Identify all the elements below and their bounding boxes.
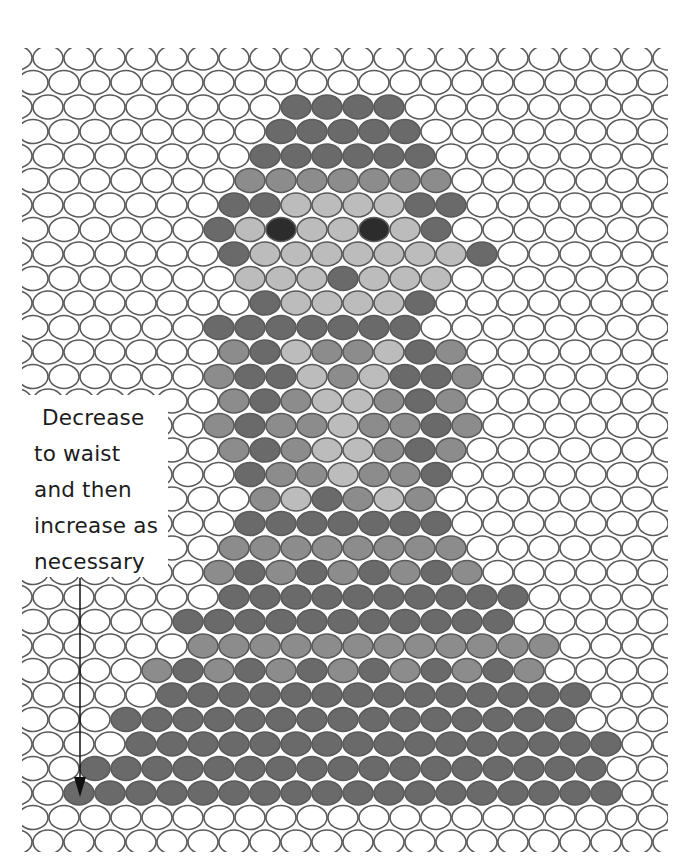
stitch-cell-empty	[483, 512, 513, 536]
stitch-cell-empty	[204, 169, 234, 193]
stitch-cell-empty	[514, 120, 544, 144]
stitch-cell-empty	[173, 463, 203, 487]
stitch-cell-filled	[250, 438, 280, 462]
stitch-cell-empty	[111, 365, 141, 389]
stitch-cell-filled	[452, 610, 482, 634]
stitch-cell-empty	[498, 340, 528, 364]
stitch-cell-filled	[204, 414, 234, 438]
stitch-cell-empty	[188, 95, 218, 119]
stitch-cell-empty	[343, 48, 373, 70]
stitch-cell-filled	[374, 683, 404, 707]
stitch-cell-empty	[173, 71, 203, 95]
stitch-cell-filled	[281, 389, 311, 413]
stitch-cell-empty	[514, 414, 544, 438]
stitch-cell-empty	[22, 169, 48, 193]
stitch-cell-filled	[374, 585, 404, 609]
stitch-cell-filled	[467, 781, 497, 805]
stitch-cell-filled	[374, 536, 404, 560]
stitch-cell-filled	[436, 683, 466, 707]
stitch-cell-empty	[529, 242, 559, 266]
stitch-cell-filled	[374, 389, 404, 413]
stitch-cell-empty	[638, 561, 668, 585]
stitch-cell-filled	[235, 561, 265, 585]
stitch-cell-empty	[576, 610, 606, 634]
stitch-cell-empty	[622, 634, 652, 658]
stitch-cell-empty	[622, 438, 652, 462]
stitch-cell-filled	[390, 316, 420, 340]
stitch-cell-filled	[235, 610, 265, 634]
stitch-cell-filled	[343, 193, 373, 217]
stitch-cell-empty	[126, 340, 156, 364]
stitch-cell-empty	[22, 659, 48, 683]
stitch-cell-empty	[514, 218, 544, 242]
stitch-cell-filled	[514, 708, 544, 732]
stitch-cell-filled	[297, 708, 327, 732]
annotation-line: increase as	[34, 508, 174, 544]
stitch-cell-filled	[545, 708, 575, 732]
stitch-cell-empty	[80, 316, 110, 340]
stitch-cell-filled	[452, 365, 482, 389]
stitch-cell-filled	[421, 365, 451, 389]
stitch-cell-empty	[22, 48, 32, 70]
stitch-cell-empty	[576, 169, 606, 193]
stitch-cell-empty	[390, 71, 420, 95]
stitch-cell-filled	[405, 683, 435, 707]
stitch-cell-filled	[390, 365, 420, 389]
stitch-cell-empty	[111, 267, 141, 291]
stitch-cell-empty	[576, 708, 606, 732]
stitch-cell-empty	[126, 291, 156, 315]
stitch-cell-empty	[622, 144, 652, 168]
stitch-cell-empty	[22, 291, 32, 315]
stitch-cell-empty	[545, 512, 575, 536]
stitch-cell-empty	[467, 193, 497, 217]
stitch-cell-filled	[436, 438, 466, 462]
stitch-cell-empty	[219, 144, 249, 168]
stitch-cell-filled	[219, 732, 249, 756]
stitch-cell-empty	[95, 193, 125, 217]
stitch-cell-empty	[498, 830, 528, 852]
stitch-cell-filled	[328, 463, 358, 487]
stitch-cell-empty	[638, 708, 668, 732]
stitch-cell-filled	[250, 536, 280, 560]
stitch-cell-empty	[653, 487, 668, 511]
stitch-cell-filled	[219, 683, 249, 707]
stitch-cell-filled	[266, 316, 296, 340]
stitch-cell-empty	[142, 169, 172, 193]
stitch-cell-empty	[359, 71, 389, 95]
stitch-cell-filled	[297, 218, 327, 242]
stitch-cell-filled	[421, 659, 451, 683]
stitch-cell-empty	[560, 389, 590, 413]
stitch-cell-empty	[591, 193, 621, 217]
stitch-cell-empty	[64, 732, 94, 756]
stitch-cell-empty	[33, 291, 63, 315]
stitch-cell-empty	[576, 414, 606, 438]
stitch-cell-empty	[591, 536, 621, 560]
stitch-cell-empty	[622, 781, 652, 805]
stitch-cell-empty	[452, 316, 482, 340]
stitch-cell-filled	[529, 634, 559, 658]
stitch-cell-empty	[607, 561, 637, 585]
stitch-cell-empty	[514, 267, 544, 291]
stitch-cell-empty	[235, 71, 265, 95]
stitch-cell-filled	[297, 365, 327, 389]
stitch-cell-filled	[250, 781, 280, 805]
stitch-cell-empty	[607, 512, 637, 536]
stitch-cell-filled	[452, 757, 482, 781]
stitch-cell-empty	[157, 144, 187, 168]
stitch-cell-empty	[622, 48, 652, 70]
stitch-cell-empty	[638, 316, 668, 340]
stitch-cell-filled	[281, 193, 311, 217]
stitch-cell-filled	[514, 757, 544, 781]
stitch-cell-empty	[219, 487, 249, 511]
stitch-cell-filled	[359, 659, 389, 683]
stitch-cell-empty	[188, 438, 218, 462]
stitch-cell-empty	[545, 267, 575, 291]
stitch-cell-empty	[653, 242, 668, 266]
stitch-cell-filled	[250, 389, 280, 413]
stitch-cell-filled	[390, 757, 420, 781]
stitch-cell-empty	[95, 683, 125, 707]
stitch-cell-empty	[591, 95, 621, 119]
stitch-cell-empty	[33, 585, 63, 609]
stitch-cell-empty	[622, 95, 652, 119]
stitch-cell-empty	[250, 95, 280, 119]
